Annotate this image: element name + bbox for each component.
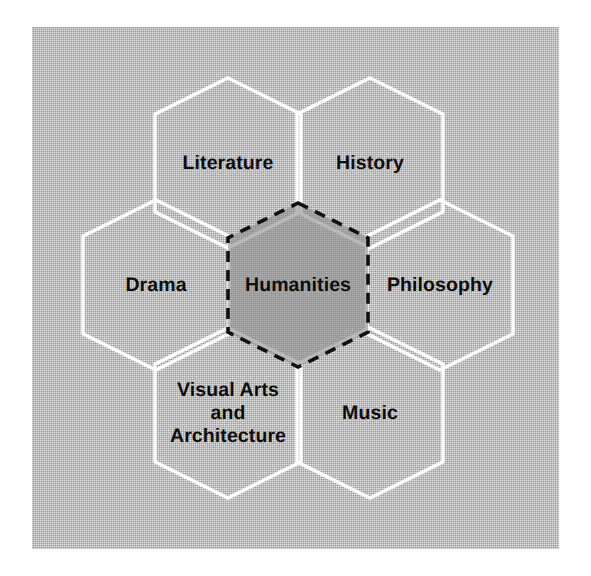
center-hexagon-outline	[228, 203, 368, 367]
figure-root: LiteratureHistoryDramaPhilosophyVisual A…	[0, 0, 591, 576]
hexagon-lattice	[0, 0, 591, 576]
hexagon-philosophy[interactable]	[367, 200, 513, 370]
hexagon-drama[interactable]	[83, 200, 229, 370]
hexagon-humanities[interactable]	[228, 203, 368, 367]
